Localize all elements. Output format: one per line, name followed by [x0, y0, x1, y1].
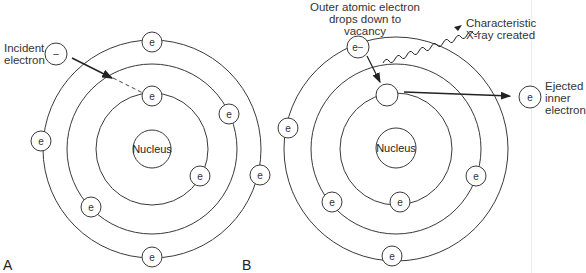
electron: e: [219, 104, 239, 124]
incident-label: Incident: [4, 42, 45, 54]
ejected-electron: e: [519, 86, 541, 108]
electron: e: [250, 165, 270, 185]
outer-electron-label: drops down to: [329, 13, 401, 25]
svg-text:e: e: [473, 171, 479, 182]
atom-diagram: Nucleus e e e e e e e e – Incident elect…: [0, 0, 586, 273]
electron: e: [190, 166, 210, 186]
svg-text:–: –: [53, 48, 59, 59]
svg-text:e: e: [38, 136, 44, 147]
outer-electron-label: vacancy: [344, 25, 386, 37]
electron: e: [466, 166, 486, 186]
vacancy: [376, 84, 398, 106]
xray-label: X-ray created: [466, 29, 535, 41]
svg-text:e: e: [149, 37, 155, 48]
drop-arrow: [367, 56, 380, 82]
xray-wave: [383, 31, 479, 63]
svg-text:e: e: [226, 109, 232, 120]
panel-label-a: A: [3, 257, 13, 273]
svg-text:e−: e−: [352, 42, 364, 53]
svg-text:e: e: [527, 92, 533, 103]
electron: e: [382, 246, 402, 266]
ejected-label: Ejected: [545, 80, 583, 92]
incident-label: electron: [4, 54, 45, 66]
svg-text:e: e: [397, 197, 403, 208]
outer-electron-label: Outer atomic electron: [310, 1, 420, 13]
svg-text:e: e: [329, 197, 335, 208]
panel-label-b: B: [242, 257, 251, 273]
electron: e: [278, 118, 298, 138]
nucleus-label: Nucleus: [132, 143, 172, 155]
xray-arrowhead: [454, 25, 462, 31]
panel-b-atom: Nucleus e− e e e e e e Outer atomic elec…: [242, 1, 586, 273]
electron: e: [81, 197, 101, 217]
svg-text:e: e: [88, 202, 94, 213]
svg-text:e: e: [149, 91, 155, 102]
ejected-label: inner: [545, 92, 571, 104]
panel-a-atom: Nucleus e e e e e e e e – Incident elect…: [3, 32, 270, 273]
svg-text:e: e: [197, 171, 203, 182]
ejected-label: electron: [545, 104, 586, 116]
electron: e: [322, 192, 342, 212]
xray-label: Characteristic: [466, 17, 537, 29]
electron: e: [390, 192, 410, 212]
electron: e: [142, 86, 162, 106]
svg-text:e: e: [389, 251, 395, 262]
incident-dashed-path: [113, 78, 143, 93]
outer-electron: e−: [347, 36, 369, 58]
nucleus-label: Nucleus: [376, 142, 416, 154]
incident-arrow: [72, 58, 112, 78]
electron: e: [142, 32, 162, 52]
svg-text:e: e: [285, 123, 291, 134]
electron: e: [142, 247, 162, 267]
svg-text:e: e: [257, 170, 263, 181]
incident-electron: –: [45, 43, 67, 65]
svg-text:e: e: [149, 252, 155, 263]
electron: e: [31, 131, 51, 151]
